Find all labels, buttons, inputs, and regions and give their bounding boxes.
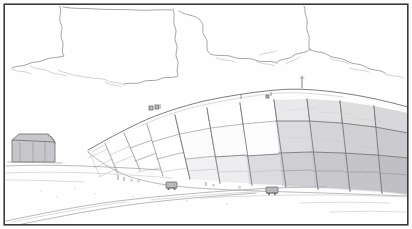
panel-column-11: [374, 106, 408, 195]
drawing-canvas: [0, 0, 412, 229]
drawing-figure: [0, 0, 412, 229]
